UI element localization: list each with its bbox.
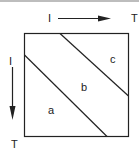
- region-b-label: b: [81, 82, 87, 93]
- diagram-canvas: [0, 0, 139, 154]
- boundary-line-ab: [25, 55, 108, 137]
- left-axis-start-label: I: [9, 56, 12, 67]
- top-axis-start-label: I: [48, 13, 51, 24]
- boundary-line-bc: [60, 34, 129, 97]
- left-axis-end-label: T: [11, 139, 18, 150]
- left-arrow-head-icon: [10, 106, 16, 120]
- region-a-label: a: [48, 105, 54, 116]
- region-c-label: c: [110, 54, 116, 65]
- top-arrow-head-icon: [98, 16, 111, 22]
- top-axis-end-label: T: [131, 13, 138, 24]
